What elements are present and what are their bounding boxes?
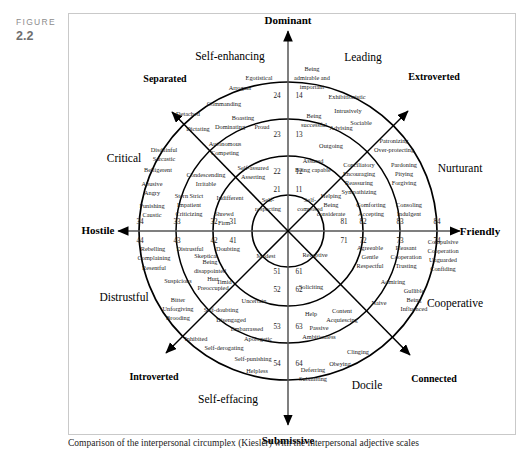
trait-brooding: Brooding: [166, 313, 190, 322]
ring-number-82: 82: [359, 218, 366, 226]
trait-embarrassed: Embarrassed: [231, 324, 264, 333]
trait-self-derogating: Self-derogating: [204, 343, 243, 352]
trait-autonomous-competing: AutonomousCompeting: [209, 139, 242, 157]
trait-consoling: ConsolingIndulgent: [396, 200, 422, 218]
trait-naive: Naive: [371, 298, 386, 307]
ring-number-81: 81: [340, 218, 347, 226]
trait-boasting: Boasting: [232, 113, 254, 122]
ring-number-13: 13: [295, 131, 302, 139]
trait-commanding: Commanding: [207, 99, 241, 108]
trait-self-punishing: Self-punishing: [234, 354, 271, 363]
trait-suspicious: Suspicious: [164, 276, 191, 285]
axis-label-friendly: Friendly: [460, 225, 500, 237]
ring-number-84: 84: [433, 218, 440, 226]
trait-inhibited: Inhibited: [185, 334, 208, 343]
trait-apologetic: Apologetic: [244, 334, 272, 343]
octant-label-distrustful: Distrustful: [99, 291, 148, 303]
trait-pleasant: PleasantCooperationTrusting: [390, 243, 421, 270]
ring-number-24: 24: [273, 92, 280, 100]
trait-sociable: Sociable: [350, 118, 372, 127]
trait-dictating: Dictating: [186, 124, 209, 133]
octant-label-docile: Docile: [352, 379, 383, 391]
trait-abusive-angry: AbusiveAngry: [142, 179, 163, 197]
trait-indifferent: Indifferent: [217, 193, 244, 202]
ring-number-14: 14: [295, 92, 302, 100]
trait-over-protecting: Over-protecting: [374, 145, 414, 154]
ring-number-71: 71: [340, 237, 347, 245]
trait-rebelling: Rebelling: [141, 244, 165, 253]
trait-dominating: Dominating: [215, 122, 245, 131]
octant-label-critical: Critical: [107, 152, 142, 164]
trait-content: ContentAcquiescing: [326, 306, 357, 324]
trait-outgoing: Outgoing: [319, 141, 343, 150]
trait-bitter: Bitter: [171, 295, 185, 304]
octant-label-cooperative: Cooperative: [427, 297, 483, 309]
trait-belligerent: Belligerent: [144, 165, 172, 174]
figure-caption: Comparison of the interpersonal circumpl…: [68, 438, 516, 451]
trait-resentful: Resentful: [142, 263, 166, 272]
trait-receptive: Receptive: [302, 250, 327, 259]
trait-being-admirable: Beingadmirable andimportant: [294, 64, 330, 91]
trait-complaining: Complaining: [138, 253, 171, 262]
ring-number-33: 33: [173, 218, 180, 226]
trait-comforting: ComfortingAccepting: [356, 200, 385, 218]
trait-conciliatory: ConciliatoryEncouragingReassuringSympath…: [342, 160, 377, 197]
trait-egotistical: Egotistical: [246, 73, 273, 82]
trait-self-doubting: Self-doubting: [204, 305, 239, 314]
trait-uncertain: Uncertain: [242, 296, 267, 305]
trait-proud: Proud: [254, 122, 269, 131]
ring-number-61: 61: [295, 268, 302, 276]
diagonal-label-introverted: Introverted: [129, 371, 178, 382]
trait-detached: Detached: [176, 109, 200, 118]
trait-shrewd-firm: ShrewdFirm: [214, 209, 233, 227]
octant-label-self-enhancing: Self-enhancing: [195, 50, 265, 62]
trait-clinging: Clinging: [347, 347, 369, 356]
circumplex-diagram: Dominant Friendly Submissive Hostile Sep…: [0, 0, 532, 452]
trait-disengaged: Disengaged: [216, 315, 246, 324]
trait-soliciting: SolicitingHelp: [299, 282, 324, 319]
octant-label-self-effacing: Self-effacing: [198, 393, 258, 405]
trait-modest: Modest: [257, 251, 276, 260]
axis-label-dominant: Dominant: [264, 14, 311, 26]
ring-number-22: 22: [273, 168, 280, 176]
diagonal-label-separated: Separated: [143, 73, 186, 84]
main-axes: [118, 31, 460, 425]
trait-advising: Advising: [329, 123, 352, 132]
trait-passive: PassiveAmbitionless: [302, 323, 336, 341]
circumplex-svg: [0, 0, 532, 452]
trait-doubting: Doubting: [216, 244, 240, 253]
ring-number-54: 54: [273, 360, 280, 368]
trait-condescending-irritable: CondescendingIrritable: [187, 170, 226, 188]
ring-number-23: 23: [273, 131, 280, 139]
trait-patronizing: Patronizing: [379, 136, 408, 145]
ring-number-53: 53: [273, 323, 280, 331]
trait-unforgiving: Unforgiving: [162, 304, 193, 313]
trait-arrogant: Arrogant: [229, 83, 252, 92]
ring-number-34: 34: [136, 218, 143, 226]
trait-intrusively: Intrusively: [334, 106, 361, 115]
trait-self-respecting: Self-respecting: [255, 195, 281, 213]
trait-pardoning: PardoningPityingForgiving: [391, 160, 417, 187]
trait-gullible: GullibleBeingInfluenced: [401, 286, 428, 313]
axis-label-hostile: Hostile: [82, 224, 115, 236]
trait-deferring: DeferringSubmitting: [299, 365, 327, 383]
trait-compulsive: CompulsiveCooperationUnguardedConfiding: [427, 237, 458, 274]
trait-obeying: Obeying: [329, 359, 351, 368]
trait-helpless: Helpless: [246, 366, 268, 375]
trait-assured-being-capable: AssuredBeing capable: [295, 156, 331, 174]
trait-preoccupied: Preoccupied: [197, 283, 228, 292]
trait-disdainful-sarcastic: DisdainfulSarcastic: [151, 145, 178, 163]
ring-number-11: 11: [296, 186, 303, 194]
trait-admiring: Admiring: [381, 277, 406, 286]
octant-label-nurturant: Nurturant: [438, 162, 483, 174]
trait-self-assured-asserting: Self-assuredAsserting: [237, 163, 268, 181]
diagonal-label-extroverted: Extroverted: [408, 71, 459, 82]
ring-number-51: 51: [273, 268, 280, 276]
trait-being-successful: Beingsuccessful: [301, 111, 327, 129]
ring-number-83: 83: [396, 218, 403, 226]
trait-distrustful-inner: Distrustful: [177, 244, 204, 253]
octant-label-leading: Leading: [344, 51, 382, 63]
ring-number-52: 52: [273, 286, 280, 294]
trait-hurt: Hurt: [207, 274, 219, 283]
trait-exhibitionistic: Exhibitionistic: [328, 92, 365, 101]
